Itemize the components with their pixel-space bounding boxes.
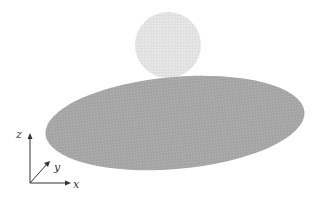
x-label: x [73,178,80,191]
figure-canvas: z y x [0,0,322,199]
x-arrow-icon [65,181,71,186]
disk [41,66,308,180]
z-label: z [15,128,22,141]
y-axis [30,163,48,183]
sphere [135,12,201,78]
y-label: y [53,161,61,174]
z-arrow-icon [28,133,33,139]
